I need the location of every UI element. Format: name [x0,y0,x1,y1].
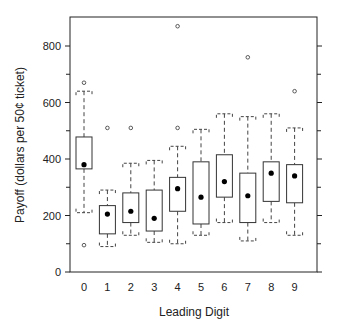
box [170,177,186,211]
y-tick-label: 0 [55,266,61,278]
outlier-point [106,126,110,130]
outlier-point [176,24,180,28]
mean-dot [175,186,180,191]
outlier-point [129,126,133,130]
x-tick-label: 3 [151,281,157,293]
mean-dot [245,193,250,198]
x-tick-label: 9 [292,281,298,293]
y-tick-label: 600 [43,97,61,109]
y-tick-label: 800 [43,40,61,52]
outlier-point [293,89,297,93]
outlier-point [82,81,86,85]
x-tick-label: 0 [81,281,87,293]
mean-dot [128,209,133,214]
box [123,193,139,223]
mean-dot [152,216,157,221]
box [193,162,209,224]
y-tick-label: 400 [43,153,61,165]
x-tick-label: 6 [221,281,227,293]
mean-dot [81,162,86,167]
y-axis-title: Payoff (dollars per 50¢ ticket) [13,67,27,223]
y-tick-label: 200 [43,210,61,222]
x-tick-label: 5 [198,281,204,293]
x-tick-label: 4 [175,281,181,293]
mean-dot [222,179,227,184]
mean-dot [292,173,297,178]
mean-dot [269,171,274,176]
box [146,190,162,231]
x-tick-label: 7 [245,281,251,293]
box [216,155,232,197]
mean-dot [105,211,110,216]
x-tick-label: 1 [104,281,110,293]
x-tick-label: 8 [268,281,274,293]
plot-area: 02004006008000123456789 [43,17,322,293]
outlier-point [176,126,180,130]
box [263,162,279,202]
mean-dot [198,195,203,200]
outlier-point [246,56,250,60]
x-tick-label: 2 [128,281,134,293]
box [287,165,303,203]
boxplot-chart: 02004006008000123456789 Leading Digit Pa… [0,0,338,336]
x-axis-title: Leading Digit [159,305,230,319]
outlier-point [82,243,86,247]
box [99,206,115,234]
